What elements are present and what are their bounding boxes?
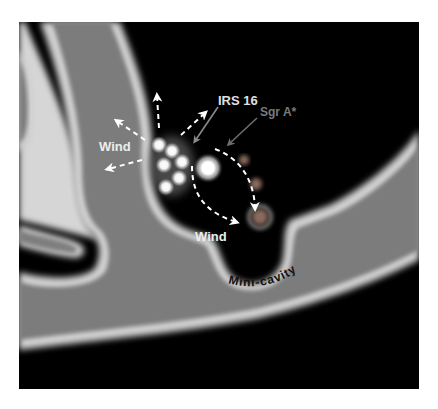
sgra-label: Sgr A* bbox=[260, 105, 297, 119]
wind-label-left: Wind bbox=[99, 139, 131, 154]
bright-star bbox=[193, 153, 223, 183]
star bbox=[173, 153, 191, 171]
irs16-star-cluster bbox=[150, 136, 194, 196]
star bbox=[155, 156, 173, 174]
wind-label-bottom: Wind bbox=[195, 229, 227, 244]
irs16-label: IRS 16 bbox=[218, 93, 258, 108]
star bbox=[157, 178, 175, 196]
galactic-center-diagram: IRS 16 Sgr A* Wind Wind Mini-cavity bbox=[0, 0, 438, 409]
